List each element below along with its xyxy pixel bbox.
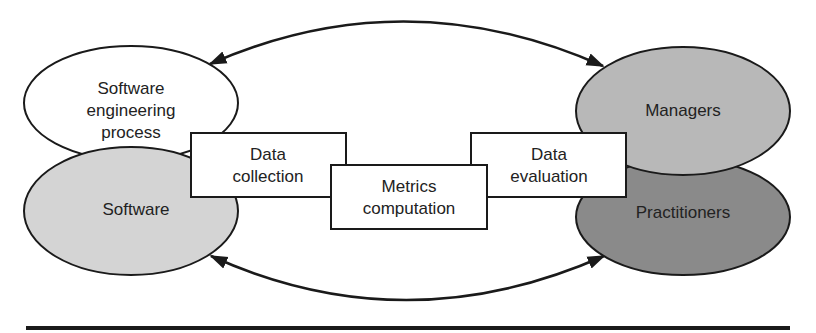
bottom-rule bbox=[26, 326, 790, 330]
node-label-line: engineering bbox=[87, 101, 176, 120]
node-label-line: Software bbox=[102, 200, 169, 219]
node-label-line: evaluation bbox=[510, 167, 588, 186]
node-label-line: Practitioners bbox=[636, 203, 730, 222]
top-bidirectional-arrow bbox=[210, 21, 603, 66]
node-metrics-computation: Metrics computation bbox=[331, 165, 487, 229]
node-label-line: Managers bbox=[645, 101, 721, 120]
node-label-line: Data bbox=[531, 145, 567, 164]
metrics-process-diagram: Software engineering process Software Pr… bbox=[0, 0, 816, 333]
node-label-line: Software bbox=[97, 79, 164, 98]
node-label-line: Data bbox=[250, 145, 286, 164]
node-label-line: collection bbox=[233, 167, 304, 186]
bottom-bidirectional-arrow bbox=[211, 256, 604, 300]
node-data-collection: Data collection bbox=[191, 133, 346, 197]
node-data-evaluation: Data evaluation bbox=[471, 133, 626, 197]
node-label-line: computation bbox=[363, 199, 456, 218]
node-label-line: process bbox=[101, 123, 161, 142]
node-label-line: Metrics bbox=[382, 177, 437, 196]
